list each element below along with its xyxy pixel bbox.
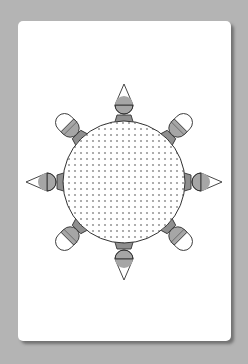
round-table — [63, 121, 185, 243]
seat-bottom — [114, 239, 134, 280]
seat-left — [26, 172, 67, 192]
round-table-diagram — [0, 0, 248, 364]
seat-right — [181, 172, 222, 192]
seat-top — [114, 84, 134, 125]
